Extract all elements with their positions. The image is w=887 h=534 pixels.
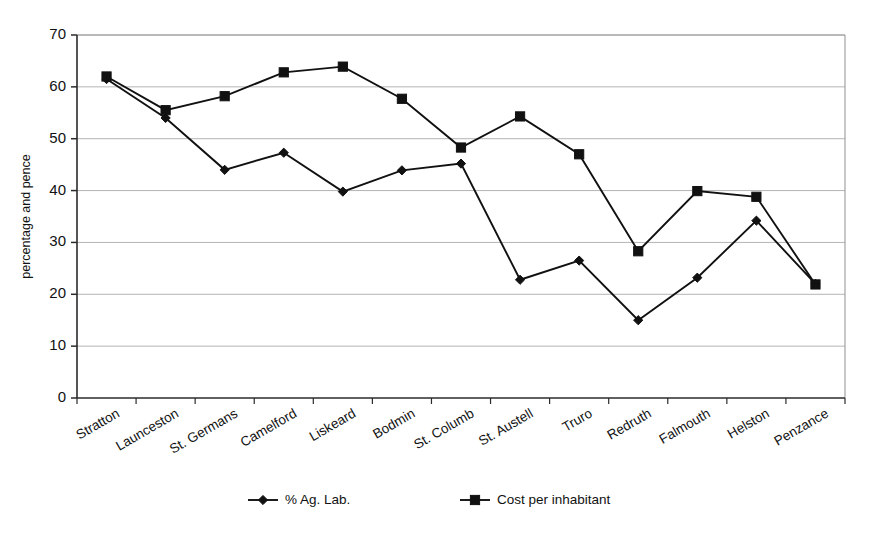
data-point	[456, 159, 465, 168]
x-tick-label: St. Germans	[167, 405, 240, 456]
series-2	[102, 62, 820, 289]
legend-item-1: % Ag. Lab.	[248, 492, 350, 507]
x-tick-label: Bodmin	[370, 406, 417, 442]
y-tick-label: 10	[49, 336, 66, 353]
x-tick-label: Truro	[560, 406, 595, 435]
x-tick-label: Stratton	[74, 406, 122, 443]
data-point	[397, 166, 406, 175]
data-point	[279, 68, 288, 77]
x-axis-tick-labels: StrattonLauncestonSt. GermansCamelfordLi…	[74, 405, 831, 456]
y-axis-ticks	[71, 35, 77, 398]
y-tick-label: 70	[49, 25, 66, 42]
data-point	[693, 186, 702, 195]
y-tick-label: 50	[49, 129, 66, 146]
data-point	[515, 275, 524, 284]
y-tick-label: 60	[49, 77, 66, 94]
data-point	[456, 143, 465, 152]
line-chart: 010203040506070 StrattonLauncestonSt. Ge…	[0, 0, 887, 534]
legend-label: Cost per inhabitant	[497, 492, 611, 507]
plot-frame	[77, 35, 845, 398]
y-axis-title: percentage and pence	[19, 154, 33, 278]
x-tick-label: Redruth	[605, 406, 654, 443]
data-point	[338, 62, 347, 71]
series-layer	[102, 62, 820, 325]
y-axis-title-text: percentage and pence	[19, 154, 33, 278]
legend-label: % Ag. Lab.	[285, 492, 350, 507]
series-line	[107, 67, 816, 285]
chart-container: 010203040506070 StrattonLauncestonSt. Ge…	[0, 0, 887, 534]
x-tick-label: Camelford	[238, 406, 299, 450]
y-tick-label: 0	[58, 388, 66, 405]
data-point	[811, 280, 820, 289]
y-tick-label: 30	[49, 232, 66, 249]
gridlines	[77, 35, 845, 346]
data-point	[515, 112, 524, 121]
x-tick-label: Liskeard	[307, 406, 359, 445]
legend-item-2: Cost per inhabitant	[460, 492, 611, 507]
data-point	[102, 72, 111, 81]
x-axis-ticks	[77, 398, 845, 404]
data-point	[752, 192, 761, 201]
chart-legend: % Ag. Lab.Cost per inhabitant	[248, 492, 611, 507]
x-tick-label: Penzance	[771, 406, 831, 449]
x-tick-label: St. Austell	[476, 406, 536, 449]
series-1	[102, 74, 820, 324]
x-tick-label: Falmouth	[657, 406, 713, 447]
series-line	[107, 79, 816, 320]
x-tick-label: St. Columb	[411, 406, 476, 452]
y-axis-tick-labels: 010203040506070	[49, 25, 66, 405]
y-tick-label: 20	[49, 284, 66, 301]
data-point	[634, 247, 643, 256]
data-point	[397, 94, 406, 103]
legend-marker-diamond	[258, 495, 267, 504]
legend-marker-square	[470, 495, 479, 504]
data-point	[220, 92, 229, 101]
x-tick-label: Helston	[725, 406, 772, 442]
data-point	[161, 106, 170, 115]
y-tick-label: 40	[49, 181, 66, 198]
data-point	[575, 150, 584, 159]
